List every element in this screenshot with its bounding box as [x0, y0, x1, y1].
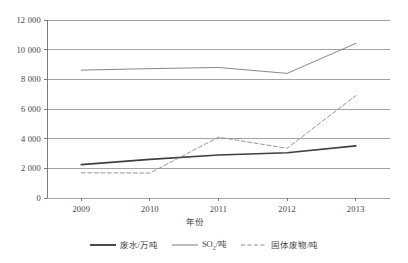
y-axis-tick-label: 0	[0, 194, 41, 203]
chart-legend: 废水/万吨SO2/吨固体废物/吨	[0, 240, 408, 251]
legend-item-so2[interactable]: SO2/吨	[172, 240, 227, 251]
legend-label: 废水/万吨	[120, 241, 158, 250]
y-axis-tick-label: 4 000	[0, 135, 41, 144]
y-axis-tick-label: 2 000	[0, 164, 41, 173]
y-axis-tick-label: 10 000	[0, 46, 41, 55]
series-line-so2	[81, 43, 355, 73]
y-axis-tick-label: 8 000	[0, 75, 41, 84]
y-axis-tick-label: 12 000	[0, 16, 41, 25]
legend-solid-line-icon	[90, 241, 116, 249]
x-axis-tick-label: 2010	[125, 205, 175, 214]
legend-solid-line-icon	[172, 241, 198, 249]
legend-item-solidwaste[interactable]: 固体废物/吨	[241, 241, 318, 250]
x-axis-tick-label: 2013	[331, 205, 381, 214]
x-axis-title: 年份	[0, 218, 390, 227]
series-line-wastewater	[81, 146, 355, 165]
x-axis-tick-label: 2012	[262, 205, 312, 214]
line-chart: 02 0004 0006 0008 00010 00012 000 200920…	[0, 0, 408, 263]
legend-label: 固体废物/吨	[271, 241, 318, 250]
legend-label: SO2/吨	[202, 240, 227, 251]
legend-item-wastewater[interactable]: 废水/万吨	[90, 241, 158, 250]
legend-dashed-line-icon	[241, 241, 267, 249]
x-axis-tick-label: 2011	[194, 205, 244, 214]
x-axis-tick-label: 2009	[56, 205, 106, 214]
y-axis-tick-label: 6 000	[0, 105, 41, 114]
